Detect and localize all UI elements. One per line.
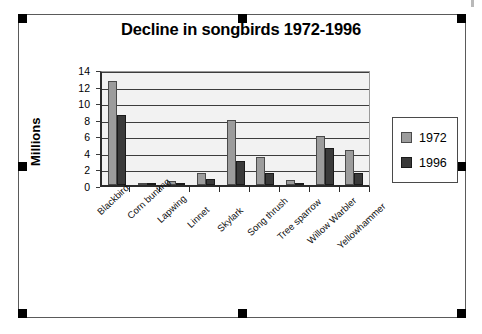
bar-1972[interactable] <box>286 180 295 185</box>
x-axis-tickmarks <box>100 187 370 192</box>
bar-1972[interactable] <box>345 150 354 185</box>
y-axis-tick-labels: 02468101214 <box>70 71 94 187</box>
bar-1972[interactable] <box>227 120 236 185</box>
bar-1972[interactable] <box>108 81 117 185</box>
bar-1996[interactable] <box>236 161 245 185</box>
y-axis-tick-label: 0 <box>84 182 90 193</box>
bar-1996[interactable] <box>117 115 126 185</box>
bar-1996[interactable] <box>265 173 274 185</box>
bar-group <box>221 72 251 185</box>
y-axis-tick-label: 2 <box>84 165 90 176</box>
y-axis-title: Millions <box>25 92 47 192</box>
screenshot-canvas: Decline in songbirds 1972-1996 Millions … <box>0 0 482 334</box>
bar-1972[interactable] <box>197 173 206 185</box>
bar-1996[interactable] <box>206 179 215 185</box>
bar-group <box>250 72 280 185</box>
resize-handle-bottom-left[interactable] <box>18 309 27 318</box>
bar-1996[interactable] <box>354 173 363 185</box>
bar-1996[interactable] <box>325 148 334 185</box>
y-axis-tick-label: 4 <box>84 149 90 160</box>
legend-label-1996: 1996 <box>419 156 447 170</box>
bar-group <box>280 72 310 185</box>
chart-title: Decline in songbirds 1972-1996 <box>0 20 482 39</box>
y-axis-tick-label: 6 <box>84 132 90 143</box>
plot-area <box>100 71 370 187</box>
x-axis-tick-slot <box>250 187 280 192</box>
legend-entry-1972: 1972 <box>401 125 457 150</box>
bar-1996[interactable] <box>176 183 185 185</box>
bar-group <box>132 72 162 185</box>
x-axis-label: Skylark <box>216 205 245 233</box>
y-axis-tick-label: 10 <box>78 99 90 110</box>
bar-1996[interactable] <box>295 183 304 185</box>
bar-1972[interactable] <box>138 183 147 185</box>
plot-wrapper: 02468101214 <box>70 71 370 205</box>
x-axis-tick-slot <box>310 187 340 192</box>
resize-handle-middle-right[interactable] <box>457 162 466 171</box>
legend-entry-1996: 1996 <box>401 150 457 175</box>
bar-group <box>161 72 191 185</box>
bar-group <box>339 72 369 185</box>
x-axis-tick-slot <box>220 187 250 192</box>
legend-swatch-icon-1972 <box>401 132 412 143</box>
bar-1972[interactable] <box>256 157 265 185</box>
legend-swatch-icon-1996 <box>401 157 412 168</box>
bar-group <box>102 72 132 185</box>
chart-legend[interactable]: 1972 1996 <box>392 117 458 183</box>
x-axis-tick-slot <box>280 187 310 192</box>
y-axis-tick-label: 12 <box>78 82 90 93</box>
bar-group <box>191 72 221 185</box>
bars-layer <box>102 72 369 185</box>
resize-handle-bottom-right[interactable] <box>457 309 466 318</box>
y-axis-tick-label: 14 <box>78 66 90 77</box>
resize-handle-bottom-center[interactable] <box>238 309 247 318</box>
legend-label-1972: 1972 <box>419 131 447 145</box>
bar-group <box>310 72 340 185</box>
x-axis-category-labels: BlackbirdCorn buntingLapwingLinnetSkylar… <box>100 207 400 287</box>
x-axis-label: Linnet <box>186 204 211 229</box>
bar-1972[interactable] <box>316 136 325 185</box>
x-axis-tick-slot <box>340 187 370 192</box>
y-axis-tick-label: 8 <box>84 115 90 126</box>
scan-artifact <box>471 0 474 7</box>
x-axis-tick-slot <box>190 187 220 192</box>
